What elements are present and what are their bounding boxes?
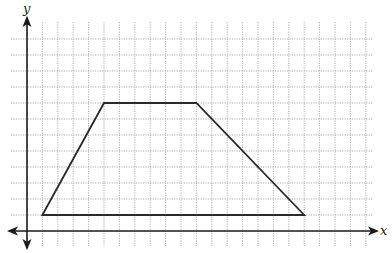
x-axis-label: x [380,223,388,238]
trapezoid-shape [42,103,304,215]
y-axis-label: y [22,1,31,16]
coordinate-graph: x y [0,0,392,253]
grid [11,22,373,246]
